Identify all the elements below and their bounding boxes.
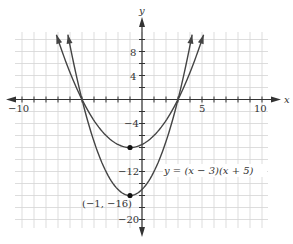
x-axis-left-arrow-icon xyxy=(6,97,16,103)
x-axis-label: x xyxy=(284,94,290,105)
y-tick-label-neg4: −4 xyxy=(124,118,139,129)
x-tick-label-5: 5 xyxy=(199,103,205,114)
y-axis-down-arrow-icon xyxy=(139,227,145,237)
y-tick-label-neg20: −20 xyxy=(118,214,139,225)
vertex-point xyxy=(127,145,132,150)
vertex-label: (−1, −16) xyxy=(82,198,132,209)
y-tick-label-8: 8 xyxy=(130,47,136,58)
y-tick-label-4: 4 xyxy=(130,71,136,82)
x-tick-label-neg10: −10 xyxy=(8,103,29,114)
y-tick-label-neg12: −12 xyxy=(118,166,139,177)
equation-label: y = (x − 3)(x + 5) xyxy=(163,165,254,176)
y-axis-label: y xyxy=(138,5,145,16)
x-axis-right-arrow-icon xyxy=(271,97,281,103)
axes xyxy=(6,17,281,237)
x-tick-label-10: 10 xyxy=(254,103,267,114)
parabola-graph: x y −10 5 10 8 4 −4 −12 −20 y = (x − 3)(… xyxy=(0,0,293,244)
y-axis-up-arrow-icon xyxy=(139,17,145,27)
